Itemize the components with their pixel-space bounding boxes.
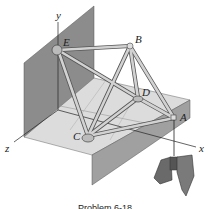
label-joint-C: C: [73, 130, 81, 142]
joint-C-support: [82, 134, 94, 142]
figure-caption-text: Problem 6-18: [0, 202, 210, 209]
label-y-axis: y: [55, 9, 61, 21]
label-x-axis: x: [198, 142, 204, 154]
label-joint-A: A: [179, 111, 187, 123]
suspended-weight: [154, 155, 194, 196]
space-truss-figure: y z x E B D A C: [0, 0, 210, 209]
joint-A: [171, 115, 176, 120]
figure-caption: Problem 6-18: [0, 202, 210, 209]
joint-B: [127, 43, 133, 49]
label-joint-D: D: [141, 86, 150, 98]
label-z-axis: z: [4, 142, 10, 154]
label-joint-B: B: [135, 33, 142, 45]
label-joint-E: E: [62, 36, 70, 48]
joint-E-support: [52, 45, 62, 55]
